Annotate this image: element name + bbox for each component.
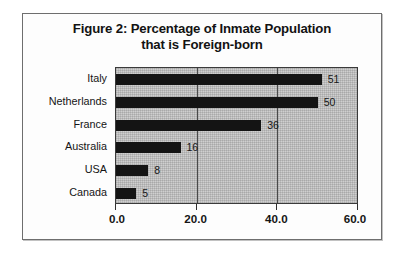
x-tick-label-20: 20.0 — [184, 212, 207, 225]
bar-italy — [116, 74, 322, 85]
figure-frame: Figure 2: Percentage of Inmate Populatio… — [22, 13, 382, 240]
x-axis-labels: 0.0 20.0 40.0 60.0 — [115, 212, 358, 228]
x-axis-tick-marks — [115, 204, 358, 211]
bar-row-france: 36 — [116, 114, 357, 137]
category-axis-labels: Italy Netherlands France Australia USA C… — [23, 67, 111, 204]
bar-value-italy: 51 — [328, 74, 340, 85]
chart-title: Figure 2: Percentage of Inmate Populatio… — [33, 21, 371, 52]
category-label-canada: Canada — [23, 181, 111, 204]
figure-root: Figure 2: Percentage of Inmate Populatio… — [0, 0, 405, 255]
x-tick-label-40: 40.0 — [265, 212, 288, 225]
chart-title-line-2: that is Foreign-born — [33, 37, 371, 53]
bar-value-canada: 5 — [142, 188, 148, 199]
bar-canada — [116, 188, 136, 199]
x-tick-mark-0 — [115, 204, 116, 210]
bar-row-italy: 51 — [116, 68, 357, 91]
category-label-usa: USA — [23, 158, 111, 181]
chart-title-line-1: Figure 2: Percentage of Inmate Populatio… — [33, 21, 371, 37]
bar-value-france: 36 — [267, 120, 279, 131]
bar-france — [116, 120, 261, 131]
x-tick-mark-20 — [196, 204, 197, 210]
bar-australia — [116, 142, 181, 153]
x-tick-label-0: 0.0 — [109, 212, 125, 225]
bar-row-australia: 16 — [116, 136, 357, 159]
bar-value-usa: 8 — [154, 165, 160, 176]
x-tick-mark-60 — [357, 204, 358, 210]
category-label-italy: Italy — [23, 67, 111, 90]
x-tick-label-60: 60.0 — [344, 212, 367, 225]
bar-row-canada: 5 — [116, 182, 357, 204]
bar-value-netherlands: 50 — [324, 97, 336, 108]
category-label-france: France — [23, 113, 111, 136]
bar-netherlands — [116, 97, 318, 108]
category-label-netherlands: Netherlands — [23, 90, 111, 113]
bar-usa — [116, 165, 148, 176]
x-tick-mark-40 — [276, 204, 277, 210]
category-label-australia: Australia — [23, 135, 111, 158]
bar-row-usa: 8 — [116, 159, 357, 182]
bar-value-australia: 16 — [187, 142, 199, 153]
plot-area: 51 50 36 16 8 5 — [115, 67, 358, 204]
bar-row-netherlands: 50 — [116, 91, 357, 114]
